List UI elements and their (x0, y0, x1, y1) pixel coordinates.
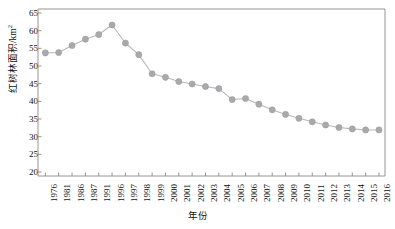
data-point (162, 74, 168, 80)
x-tick-label: 2015 (369, 184, 379, 202)
x-tick-label: 2004 (222, 184, 232, 202)
x-tick-label: 1976 (49, 184, 59, 202)
x-tick-label: 2006 (249, 184, 259, 202)
x-tick-label: 2000 (169, 184, 179, 202)
data-point (229, 96, 235, 102)
chart-container: 红树林面积/km2 20253035404550556065 197619811… (0, 0, 395, 229)
data-point (336, 124, 342, 130)
data-point (69, 42, 75, 48)
x-tick-label: 1981 (62, 184, 72, 202)
data-point (122, 40, 128, 46)
x-tick-label: 1986 (76, 184, 86, 202)
x-tick-label: 1996 (116, 184, 126, 202)
data-point (363, 127, 369, 133)
data-point (323, 122, 329, 128)
x-tick-label: 2014 (356, 184, 366, 202)
x-axis-title: 年份 (0, 208, 395, 222)
data-point (42, 50, 48, 56)
data-point (269, 107, 275, 113)
data-point (136, 52, 142, 58)
data-point (256, 101, 262, 107)
data-line (45, 25, 379, 130)
x-tick-label: 2007 (262, 184, 272, 202)
x-tick-label: 2001 (182, 184, 192, 202)
data-point (216, 86, 222, 92)
data-point (309, 119, 315, 125)
data-point (56, 49, 62, 55)
data-point (96, 31, 102, 37)
data-point (149, 71, 155, 77)
data-point (242, 95, 248, 101)
x-tick-label: 2016 (382, 184, 392, 202)
data-point (349, 126, 355, 132)
x-tick-label: 2005 (236, 184, 246, 202)
x-tick-label: 1987 (89, 184, 99, 202)
data-point (202, 83, 208, 89)
x-tick-label: 1999 (156, 184, 166, 202)
x-tick-label: 2013 (342, 184, 352, 202)
data-point (109, 22, 115, 28)
x-tick-label: 2008 (276, 184, 286, 202)
data-point (296, 115, 302, 121)
data-point (189, 81, 195, 87)
x-tick-label: 2010 (302, 184, 312, 202)
data-point (282, 111, 288, 117)
data-point (82, 36, 88, 42)
x-tick-label: 2003 (209, 184, 219, 202)
x-tick-label: 1997 (129, 184, 139, 202)
x-tick-label: 2011 (316, 184, 326, 202)
x-tick-label: 2009 (289, 184, 299, 202)
x-tick-label: 1998 (142, 184, 152, 202)
data-point (376, 127, 382, 133)
x-tick-label: 1991 (102, 184, 112, 202)
x-tick-label: 2002 (196, 184, 206, 202)
data-point (176, 78, 182, 84)
x-tick-label: 2012 (329, 184, 339, 202)
